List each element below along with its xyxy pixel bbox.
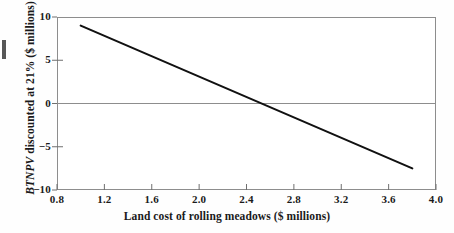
series-line-btnpv [81, 26, 413, 169]
y-tick-label: 5 [45, 54, 51, 65]
x-tick-label: 2.8 [274, 193, 314, 205]
x-tick-label: 1.2 [84, 193, 124, 205]
x-tick-label: 2.0 [179, 193, 219, 205]
x-tick-marks [57, 184, 436, 190]
x-tick-label: 2.4 [227, 193, 267, 205]
x-tick-label: 4.0 [416, 193, 454, 205]
y-axis-title: BTNPV discounted at 21% ($ millions) [24, 0, 36, 198]
y-tick-label: 0 [45, 98, 51, 109]
x-axis-tick-labels: 0.8 1.2 1.6 2.0 2.4 2.8 3.2 3.6 4.0 [0, 193, 454, 209]
y-axis-title-rest: discounted at 21% ($ millions) [24, 1, 36, 157]
x-tick-label: 0.8 [37, 193, 77, 205]
x-tick-label: 3.6 [369, 193, 409, 205]
x-axis-title: Land cost of rolling meadows ($ millions… [0, 210, 454, 222]
y-tick-label: 10 [40, 11, 51, 22]
y-axis-title-acronym: BTNPV [24, 157, 36, 195]
chart-figure: 10 5 0 −5 −10 0.8 1.2 1.6 2.0 2.4 2.8 3.… [0, 0, 454, 233]
y-tick-label: −5 [39, 141, 51, 152]
x-tick-label: 1.6 [132, 193, 172, 205]
x-tick-label: 3.2 [321, 193, 361, 205]
